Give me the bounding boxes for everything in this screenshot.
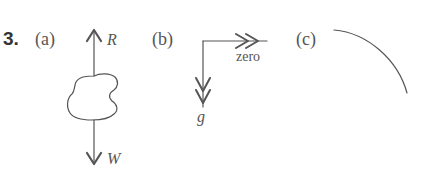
force-w-arrow-icon: [87, 120, 101, 164]
diagram-canvas: [0, 0, 423, 170]
arc-icon: [334, 30, 407, 93]
irregular-body-icon: [68, 74, 118, 120]
g-vector-icon: [196, 41, 210, 107]
zero-vector-icon: [203, 34, 267, 48]
force-r-arrow-icon: [87, 30, 101, 76]
